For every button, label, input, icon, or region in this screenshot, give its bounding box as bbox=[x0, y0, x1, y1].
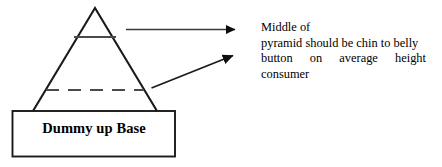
base-box-label: Dummy up Base bbox=[13, 112, 175, 157]
annotation-line-2: pyramid should be chin to belly bbox=[261, 36, 426, 52]
annotation-line-3: button on average height bbox=[261, 51, 426, 67]
annotation-line-3-word-4: height bbox=[395, 51, 426, 67]
middle-callout-arrow bbox=[152, 56, 234, 89]
annotation-text-block: Middle of pyramid should be chin to bell… bbox=[261, 20, 426, 82]
pyramid-triangle bbox=[33, 8, 157, 111]
annotation-line-3-word-2: on bbox=[310, 51, 322, 67]
annotation-line-3-word-3: average bbox=[339, 51, 378, 67]
annotation-line-4: consumer bbox=[261, 67, 426, 83]
diagram-canvas: Dummy up Base Middle of pyramid should b… bbox=[0, 0, 442, 167]
annotation-line-3-word-1: button bbox=[261, 51, 293, 67]
annotation-line-1: Middle of bbox=[261, 20, 426, 36]
